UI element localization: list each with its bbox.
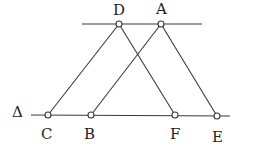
point-F — [172, 112, 178, 118]
label-D: D — [113, 1, 125, 19]
label-C: C — [41, 125, 52, 143]
geometry-diagram: Δ D A C B F E — [0, 0, 253, 157]
point-A — [158, 21, 164, 27]
label-A: A — [155, 0, 167, 18]
point-E — [214, 113, 220, 119]
segment-DF — [119, 24, 175, 115]
point-D — [116, 21, 122, 27]
label-delta: Δ — [12, 103, 23, 121]
label-E: E — [212, 128, 223, 146]
segment-AE — [161, 24, 217, 116]
bottom-line-delta — [31, 115, 230, 116]
segment-AB — [91, 24, 161, 115]
point-B — [88, 112, 94, 118]
segment-DC — [48, 24, 119, 115]
label-F: F — [170, 125, 180, 143]
point-C — [45, 112, 51, 118]
label-B: B — [84, 125, 95, 143]
